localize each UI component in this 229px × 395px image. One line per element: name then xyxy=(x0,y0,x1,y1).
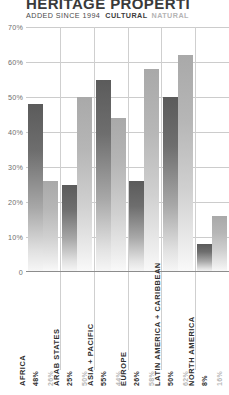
bar-cultural xyxy=(28,104,43,272)
category-label: EUROPE xyxy=(119,351,128,386)
category-label: LATIN AMERICA + CARIBBEAN xyxy=(153,262,162,386)
bar-value-label: 8% xyxy=(201,375,208,386)
y-axis-tick-label: 30% xyxy=(8,163,23,172)
bar-series-layer xyxy=(26,27,229,272)
bar-cultural xyxy=(96,80,111,273)
bar-value-label: 26% xyxy=(133,371,140,386)
bar-value-label: 50% xyxy=(167,371,174,386)
y-axis-tick-label: 20% xyxy=(8,198,23,207)
bar-natural xyxy=(111,118,126,272)
bar-cultural xyxy=(163,97,178,272)
bar-cultural xyxy=(129,181,144,272)
bar-natural xyxy=(144,69,159,272)
bar-cultural xyxy=(62,185,77,273)
legend-item-natural: NATURAL xyxy=(152,11,189,20)
bar-cultural xyxy=(197,244,212,272)
bar-value-label: 25% xyxy=(66,371,73,386)
bar-value-label: 48% xyxy=(32,371,39,386)
x-axis-labels: 48%26%AFRICA25%50%ARAB STATES55%44%ASIA … xyxy=(26,274,229,392)
y-axis-tick-label: 0 xyxy=(19,268,23,277)
category-label: NORTH AMERICA xyxy=(187,316,196,386)
y-axis-tick-label: 60% xyxy=(8,58,23,67)
bar-natural xyxy=(77,97,92,272)
legend-item-cultural: CULTURAL xyxy=(105,11,147,20)
bar-natural xyxy=(43,181,58,272)
plot-area: 010%20%30%40%50%60%70% xyxy=(26,27,229,272)
y-axis-tick-label: 70% xyxy=(8,23,23,32)
bar-natural xyxy=(178,55,193,272)
category-label: ASIA + PACIFIC xyxy=(86,323,95,386)
category-label: ARAB STATES xyxy=(52,328,61,386)
bar-natural xyxy=(212,216,227,272)
bar-value-label: 55% xyxy=(100,371,107,386)
x-axis-line xyxy=(26,271,229,272)
chart-page: HERITAGE PROPERTI ADDED SINCE 1994CULTUR… xyxy=(0,0,229,395)
legend-added-since: ADDED SINCE 1994 xyxy=(26,11,100,20)
bar-value-label: 16% xyxy=(216,371,223,386)
y-axis-tick-label: 50% xyxy=(8,93,23,102)
y-axis-tick-label: 40% xyxy=(8,128,23,137)
category-label: AFRICA xyxy=(18,355,27,386)
y-axis-tick-label: 10% xyxy=(8,233,23,242)
chart-legend: ADDED SINCE 1994CULTURALNATURAL xyxy=(26,11,189,20)
